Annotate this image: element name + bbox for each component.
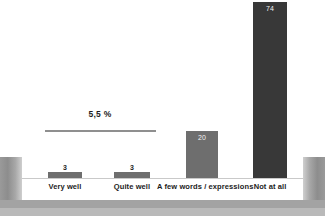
bar-quite-well xyxy=(114,172,150,178)
bar-value-a-few-words-expressions: 20 xyxy=(186,134,218,142)
chart-screenshot: 3 Very well 3 Quite well 20 A few words … xyxy=(0,0,325,216)
scan-bottom-band-light xyxy=(0,208,325,216)
bar-value-very-well: 3 xyxy=(48,164,82,172)
category-label-not-at-all: Not at all xyxy=(240,182,300,191)
bar-not-at-all xyxy=(253,2,287,178)
bar-chart-plot-area: 3 Very well 3 Quite well 20 A few words … xyxy=(0,0,325,200)
category-label-a-few-words-expressions: A few words / expressions xyxy=(157,182,247,191)
bar-very-well xyxy=(48,172,82,178)
bar-value-not-at-all: 74 xyxy=(253,5,287,13)
annotation-label-5-5-percent: 5,5 % xyxy=(45,109,155,119)
bar-value-quite-well: 3 xyxy=(114,164,150,172)
x-axis-baseline xyxy=(22,178,303,179)
annotation-rule xyxy=(45,130,156,132)
